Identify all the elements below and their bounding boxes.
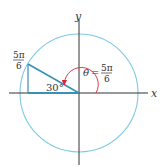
point-label-numerator: 5π: [13, 50, 25, 60]
reference-angle-label: 30°: [46, 82, 64, 93]
y-axis-label: y: [74, 10, 82, 23]
unit-circle-diagram: y x 5π 6 θ = 5π 6 30°: [0, 0, 166, 167]
x-axis-label: x: [151, 87, 158, 100]
angle-label-denominator: 6: [104, 74, 110, 84]
angle-label-theta: θ: [83, 67, 89, 78]
angle-label-equals: =: [91, 67, 99, 78]
point-label-denominator: 6: [16, 61, 22, 71]
angle-label-numerator: 5π: [101, 63, 113, 73]
